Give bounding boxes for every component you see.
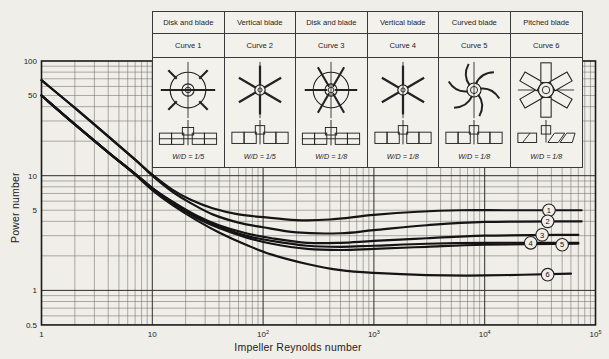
- curve-5-marker-number: 5: [560, 240, 564, 249]
- y-tick-labels: 1005010510.5: [24, 57, 38, 330]
- curve-6-marker-number: 6: [546, 270, 550, 279]
- legend-column-curve-6: Pitched bladeCurve 6W/D = 1/8: [511, 12, 583, 167]
- blade-width-ratio-label: W/D = 1/5: [153, 150, 224, 166]
- impeller-name: Disk and blade: [153, 12, 224, 34]
- curve-label: Curve 6: [511, 34, 583, 58]
- power-number-figure: 1234561101021031041051005010510.5 Power …: [0, 0, 609, 359]
- x-tick-label: 105: [590, 329, 602, 339]
- blade-width-ratio-label: W/D = 1/8: [439, 150, 510, 166]
- y-axis-label: Power number: [9, 172, 21, 243]
- curved-blade-impeller-icon: [444, 60, 504, 120]
- pitched-blade-impeller-icon: [516, 60, 576, 120]
- disk-stub-impeller-icon: [158, 60, 218, 120]
- disk-spokes-impeller-icon: [301, 60, 361, 120]
- x-tick-label: 102: [257, 329, 269, 339]
- impeller-name: Pitched blade: [511, 12, 583, 34]
- vertical-blade-impeller-icon: [230, 60, 290, 120]
- impeller-name: Curved blade: [439, 12, 510, 34]
- curve-1-marker-number: 1: [547, 206, 551, 215]
- y-tick-label: 0.5: [26, 321, 38, 330]
- curve-4-marker-number: 4: [529, 239, 533, 248]
- curve-label: Curve 4: [368, 34, 439, 58]
- y-tick-label: 100: [24, 57, 38, 66]
- vertical-blade-impeller-icon: [373, 60, 433, 120]
- curve-2-marker-number: 2: [546, 217, 550, 226]
- side-flat-view-icon: [443, 120, 505, 150]
- impeller-name: Disk and blade: [296, 12, 367, 34]
- x-tick-label: 10: [148, 330, 157, 339]
- impeller-name: Vertical blade: [368, 12, 439, 34]
- x-tick-label: 104: [479, 329, 491, 339]
- side-disk-view-icon: [300, 120, 362, 150]
- side-flat-view-icon: [372, 120, 434, 150]
- x-tick-labels: 110102103104105: [39, 329, 601, 339]
- legend-column-curve-1: Disk and bladeCurve 1W/D = 1/5: [153, 12, 225, 167]
- y-tick-label: 1: [33, 286, 38, 295]
- blade-width-ratio-label: W/D = 1/8: [511, 150, 583, 166]
- y-tick-label: 10: [28, 172, 37, 181]
- x-tick-label: 1: [39, 330, 44, 339]
- curve-label: Curve 2: [225, 34, 296, 58]
- impeller-name: Vertical blade: [225, 12, 296, 34]
- curve-label: Curve 3: [296, 34, 367, 58]
- blade-width-ratio-label: W/D = 1/8: [368, 150, 439, 166]
- side-disk-view-icon: [157, 120, 219, 150]
- curve-label: Curve 5: [439, 34, 510, 58]
- curve-label: Curve 1: [153, 34, 224, 58]
- side-flat-view-icon: [229, 120, 291, 150]
- x-axis-label: Impeller Reynolds number: [0, 341, 608, 353]
- side-pitched-view-icon: [515, 120, 577, 150]
- legend-column-curve-5: Curved bladeCurve 5W/D = 1/8: [439, 12, 511, 167]
- y-tick-label: 5: [33, 206, 38, 215]
- x-tick-label: 103: [368, 329, 380, 339]
- legend-column-curve-2: Vertical bladeCurve 2W/D = 1/5: [225, 12, 297, 167]
- curve-3-marker-number: 3: [540, 231, 544, 240]
- legend-column-curve-3: Disk and bladeCurve 3W/D = 1/8: [296, 12, 368, 167]
- y-tick-label: 50: [28, 91, 37, 100]
- legend-column-curve-4: Vertical bladeCurve 4W/D = 1/8: [368, 12, 440, 167]
- blade-width-ratio-label: W/D = 1/5: [225, 150, 296, 166]
- blade-width-ratio-label: W/D = 1/8: [296, 150, 367, 166]
- impeller-legend-table: Disk and bladeCurve 1W/D = 1/5Vertical b…: [152, 11, 583, 168]
